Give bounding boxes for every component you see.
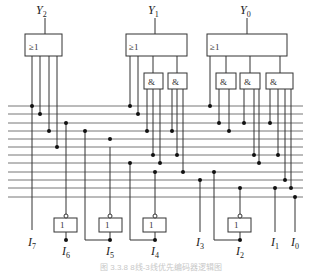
svg-text:≥1: ≥1 — [210, 42, 219, 52]
input-label-i3: I3 — [195, 235, 204, 251]
svg-text:1: 1 — [60, 220, 65, 230]
input-label-i0: I0 — [290, 235, 299, 251]
input-label-i7: I7 — [27, 235, 36, 251]
svg-text:≥1: ≥1 — [129, 42, 138, 52]
svg-text:1: 1 — [149, 220, 154, 230]
svg-text:&: & — [244, 77, 251, 87]
svg-text:1: 1 — [105, 220, 110, 230]
input-label-i6: I6 — [61, 244, 70, 260]
output-label-y2: Y2 — [36, 3, 47, 19]
svg-text:&: & — [220, 77, 227, 87]
encoder-logic-diagram: ≥1 ≥1 ≥1 & & & & & 1 1 1 1 — [0, 0, 310, 273]
input-label-i1: I1 — [270, 235, 279, 251]
circuit-svg: ≥1 ≥1 ≥1 & & & & & 1 1 1 1 — [0, 0, 310, 273]
input-label-i4: I4 — [150, 244, 159, 260]
svg-text:&: & — [172, 77, 179, 87]
svg-text:&: & — [148, 77, 155, 87]
input-label-i2: I2 — [235, 244, 244, 260]
svg-text:1: 1 — [234, 220, 239, 230]
figure-caption: 图 3.3.8 8线-3线优先编码器逻辑图 — [100, 262, 222, 272]
svg-text:&: & — [270, 77, 277, 87]
input-label-i5: I5 — [105, 244, 114, 260]
output-label-y0: Y0 — [240, 3, 251, 19]
output-label-y1: Y1 — [148, 3, 159, 19]
svg-text:≥1: ≥1 — [29, 42, 38, 52]
